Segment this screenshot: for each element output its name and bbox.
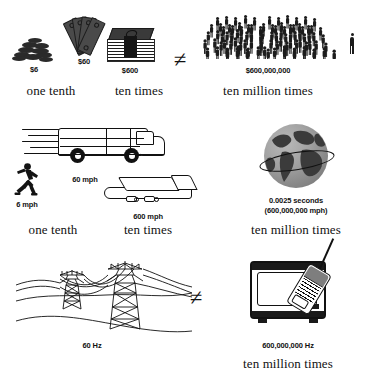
globe-icon xyxy=(264,124,328,188)
frequency-caption-ten-million: ten million times xyxy=(243,356,333,372)
figure-canvas: $6 $60 $600 ≠ xyxy=(0,0,365,379)
bill-fan-icon xyxy=(58,13,110,57)
not-equal-sign-money: ≠ xyxy=(174,48,187,71)
crowd-icon xyxy=(198,13,348,59)
airplane-icon xyxy=(100,173,196,209)
money-stack-value: $600 xyxy=(122,67,138,76)
speed-caption-ten-million: ten million times xyxy=(251,222,341,238)
money-caption-one-tenth: one tenth xyxy=(27,83,76,99)
speed-van-value: 60 mph xyxy=(72,176,98,185)
money-caption-ten-million: ten million times xyxy=(223,83,313,99)
speed-caption-ten-times: ten times xyxy=(124,222,172,238)
frequency-tv-value: 600,000,000 Hz xyxy=(262,342,314,351)
coin-pile-icon xyxy=(12,38,56,64)
speed-runner-value: 6 mph xyxy=(16,201,38,210)
speed-globe-value-secondary: (600,000,000 mph) xyxy=(265,207,328,216)
running-person-icon xyxy=(14,163,40,197)
money-crowd-value: $600,000,000 xyxy=(246,67,291,76)
money-coins-value: $6 xyxy=(30,66,38,75)
single-person-icon xyxy=(349,33,355,55)
money-bills-value: $60 xyxy=(78,58,90,67)
frequency-powerline-value: 60 Hz xyxy=(82,342,101,351)
not-equal-sign-frequency: ≠ xyxy=(190,286,203,309)
speed-globe-value: 0.0025 seconds xyxy=(269,197,323,206)
money-caption-ten-times: ten times xyxy=(115,83,163,99)
speed-caption-one-tenth: one tenth xyxy=(29,222,78,238)
bill-stack-icon xyxy=(107,28,153,62)
speed-plane-value: 600 mph xyxy=(133,213,163,222)
van-icon xyxy=(48,126,166,174)
power-pylon-icon xyxy=(14,253,194,333)
